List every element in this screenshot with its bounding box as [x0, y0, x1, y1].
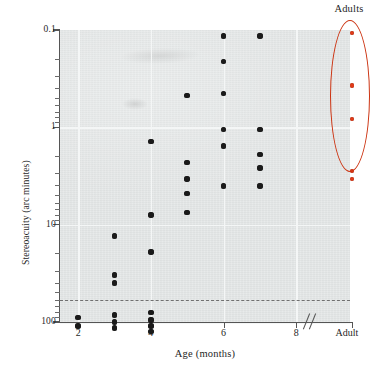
y-axis-title: Stereoacuity (arc minutes) [20, 160, 31, 265]
data-point [112, 319, 118, 325]
y-tick-label-0.1: 0.1 [16, 24, 56, 34]
data-point [148, 139, 154, 145]
y-tick-minor [55, 185, 60, 186]
y-tick-minor [55, 59, 60, 60]
data-point [148, 323, 154, 329]
chart-figure: 0.1110100 2468Adult Adults Stereoacuity … [0, 0, 381, 380]
y-tick-minor [55, 112, 60, 113]
data-point [350, 177, 355, 182]
data-point [148, 329, 154, 335]
y-tick-minor [55, 105, 60, 106]
reference-line-dashed [60, 300, 350, 301]
y-tick-minor [55, 271, 60, 272]
data-point [148, 310, 154, 316]
data-point [221, 143, 227, 149]
y-tick-minor [55, 292, 60, 293]
y-tick-minor [55, 209, 60, 210]
gridline-vertical [224, 30, 226, 322]
y-tick-minor [55, 203, 60, 204]
data-point [221, 183, 227, 189]
y-tick-minor [55, 306, 60, 307]
y-tick-minor [55, 98, 60, 99]
panel-artifact [120, 47, 201, 66]
data-point [75, 323, 81, 329]
panel-artifact-2 [122, 98, 148, 110]
data-point [184, 93, 190, 99]
y-tick-minor [55, 117, 60, 118]
y-tick-label-1: 1 [16, 121, 56, 131]
y-tick-minor [55, 173, 60, 174]
data-point [221, 33, 227, 39]
gridline-vertical [78, 30, 80, 322]
data-point [257, 165, 263, 171]
data-point [148, 317, 154, 323]
y-axis-line [59, 29, 60, 323]
data-point [257, 152, 263, 158]
data-point [257, 33, 263, 39]
gridline-vertical [151, 30, 153, 322]
gridline-horizontal [60, 127, 350, 129]
adults-ellipse-annotation [330, 20, 370, 172]
x-axis-title: Age (months) [110, 348, 300, 359]
data-point [257, 183, 263, 189]
y-tick-minor [55, 312, 60, 313]
data-point [112, 325, 118, 331]
y-tick-minor [55, 195, 60, 196]
data-point [148, 212, 154, 218]
y-tick-label-100: 100 [16, 316, 56, 326]
gridline-vertical [296, 30, 298, 322]
data-point [257, 127, 263, 133]
y-tick-minor [55, 156, 60, 157]
y-tick-minor [55, 88, 60, 89]
panel-texture [60, 30, 350, 322]
data-point [184, 176, 190, 182]
y-tick-minor [55, 215, 60, 216]
data-point [148, 249, 154, 255]
y-tick-minor [55, 76, 60, 77]
adults-annotation-label: Adults [316, 3, 381, 14]
y-tick-minor [55, 253, 60, 254]
plot-area [60, 30, 350, 322]
x-tick-label-adult: Adult [324, 327, 370, 338]
data-point [112, 233, 118, 239]
y-tick-minor [55, 283, 60, 284]
gridline-horizontal [60, 225, 350, 227]
x-tick-label-6: 6 [204, 327, 244, 338]
axis-break-icon [300, 313, 324, 331]
